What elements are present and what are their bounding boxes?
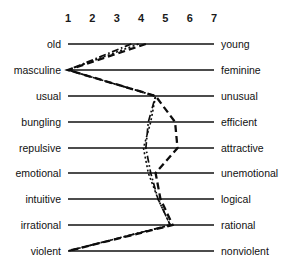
left-pole-intuitive: intuitive <box>25 193 61 205</box>
scale-tick-5: 5 <box>162 12 168 24</box>
right-pole-unusual: unusual <box>221 90 258 102</box>
right-pole-labels: youngfeminineunusualefficientattractiveu… <box>221 38 278 257</box>
left-pole-emotional: emotional <box>15 167 61 179</box>
scale-tick-6: 6 <box>187 12 193 24</box>
right-pole-rational: rational <box>221 219 255 231</box>
row-axis-lines <box>68 44 214 251</box>
right-pole-efficient: efficient <box>221 116 257 128</box>
left-pole-usual: usual <box>36 90 61 102</box>
right-pole-attractive: attractive <box>221 142 264 154</box>
right-pole-feminine: feminine <box>221 64 261 76</box>
right-pole-unemotional: unemotional <box>221 167 278 179</box>
left-pole-violent: violent <box>31 245 61 257</box>
right-pole-young: young <box>221 38 250 50</box>
right-pole-nonviolent: nonviolent <box>221 245 269 257</box>
left-pole-old: old <box>47 38 61 50</box>
left-pole-repulsive: repulsive <box>19 142 61 154</box>
scale-tick-labels: 1234567 <box>65 12 217 24</box>
scale-tick-3: 3 <box>114 12 120 24</box>
profile-plot: 1234567 oldmasculineusualbunglingrepulsi… <box>0 0 303 277</box>
semantic-differential-chart: 1234567 oldmasculineusualbunglingrepulsi… <box>0 0 303 277</box>
left-pole-labels: oldmasculineusualbunglingrepulsiveemotio… <box>14 38 61 257</box>
scale-tick-2: 2 <box>89 12 95 24</box>
scale-tick-4: 4 <box>138 12 145 24</box>
left-pole-bungling: bungling <box>21 116 61 128</box>
scale-tick-7: 7 <box>211 12 217 24</box>
left-pole-irrational: irrational <box>21 219 61 231</box>
scale-tick-1: 1 <box>65 12 71 24</box>
left-pole-masculine: masculine <box>14 64 61 76</box>
right-pole-logical: logical <box>221 193 251 205</box>
